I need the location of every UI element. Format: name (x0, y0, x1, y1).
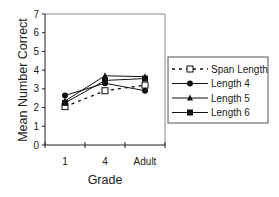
data-point (62, 92, 68, 98)
y-tick-label: 7 (33, 9, 39, 20)
legend-label: Span Length (211, 64, 268, 75)
x-tick-label: 1 (62, 156, 68, 167)
y-tick-label: 5 (33, 46, 39, 57)
y-tick-label: 0 (33, 140, 39, 151)
data-point (142, 88, 148, 94)
data-point (62, 100, 68, 106)
data-point (142, 76, 148, 82)
data-point (102, 77, 108, 83)
legend-marker (187, 81, 193, 87)
legend-label: Length 6 (211, 107, 250, 118)
data-point (102, 72, 108, 78)
y-tick-label: 2 (33, 102, 39, 113)
legend: Span LengthLength 4Length 5Length 6 (168, 57, 268, 123)
line-chart: 0123456714Adult Mean Number Correct Grad… (0, 0, 279, 197)
y-axis-title: Mean Number Correct (16, 18, 30, 142)
x-axis-title: Grade (88, 173, 123, 187)
legend-marker (187, 66, 193, 72)
data-point (142, 82, 148, 88)
y-tick-label: 6 (33, 27, 39, 38)
legend-label: Length 4 (211, 78, 250, 89)
y-tick-label: 1 (33, 121, 39, 132)
legend-label: Length 5 (211, 93, 250, 104)
y-tick-label: 3 (33, 83, 39, 94)
y-tick-label: 4 (33, 65, 39, 76)
x-tick-label: Adult (134, 156, 157, 167)
legend-marker (187, 110, 193, 116)
x-tick-label: 4 (102, 156, 108, 167)
data-point (102, 88, 108, 94)
